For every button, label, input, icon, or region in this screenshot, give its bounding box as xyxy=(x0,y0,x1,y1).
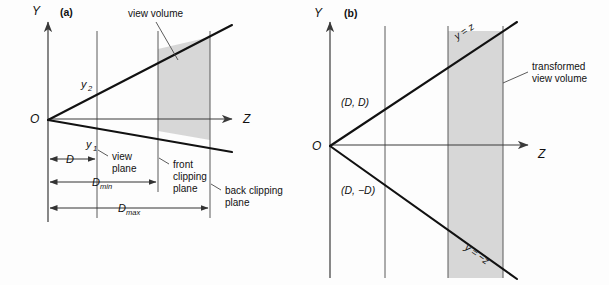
back-clipping-plane-leader xyxy=(211,184,221,190)
front-clipping-plane-leader xyxy=(159,158,169,164)
ray-lower-label-y1: y xyxy=(85,138,93,150)
view-volume-shaded-region xyxy=(158,37,210,140)
panel-a-tag: (a) xyxy=(60,6,73,18)
transformed-view-volume-leader xyxy=(503,72,528,83)
figure-svg: (a) Y Z O y 2 y 1 D D min D max view vol… xyxy=(0,0,609,285)
annotation-view-volume: view volume xyxy=(128,8,183,19)
transformed-view-volume-shaded-region xyxy=(448,31,503,278)
dimension-d-label: D xyxy=(66,153,74,165)
annotation-front-clipping-line3: plane xyxy=(173,183,198,194)
view-plane-leader xyxy=(98,150,108,156)
panel-a: (a) Y Z O y 2 y 1 D D min D max view vol… xyxy=(30,4,283,222)
coord-label-upper: (D, D) xyxy=(341,96,369,108)
dimension-dmax-subscript: max xyxy=(126,208,140,217)
y-axis-label-a: Y xyxy=(32,4,41,18)
panel-b: (b) Y Z O (D, D) (D, −D) y = z y = −z tr… xyxy=(312,6,587,279)
panel-b-tag: (b) xyxy=(344,7,357,19)
origin-label-b: O xyxy=(312,139,321,153)
annotation-back-clipping-line2: plane xyxy=(225,197,250,208)
ray-upper-label-y2: y xyxy=(80,78,88,90)
ray-upper-subscript-2: 2 xyxy=(87,84,93,93)
annotation-front-clipping-line1: front xyxy=(173,159,193,170)
coord-label-lower: (D, −D) xyxy=(341,184,375,196)
z-axis-label-b: Z xyxy=(537,147,546,161)
annotation-transformed-line2: view volume xyxy=(532,73,587,84)
figure-container: (a) Y Z O y 2 y 1 D D min D max view vol… xyxy=(0,0,609,285)
ray-lower-subscript-1: 1 xyxy=(93,144,97,153)
z-axis-label-a: Z xyxy=(242,112,251,126)
origin-label-a: O xyxy=(30,112,39,126)
annotation-transformed-line1: transformed xyxy=(532,61,585,72)
annotation-view-plane-line2: plane xyxy=(112,163,137,174)
dimension-dmax-label: D xyxy=(118,202,126,214)
annotation-front-clipping-line2: clipping xyxy=(173,171,207,182)
y-axis-label-b: Y xyxy=(314,6,323,20)
annotation-view-plane-line1: view xyxy=(112,151,133,162)
annotation-back-clipping-line1: back clipping xyxy=(225,185,283,196)
dimension-dmin-label: D xyxy=(92,176,100,188)
dimension-dmin-subscript: min xyxy=(100,182,112,191)
